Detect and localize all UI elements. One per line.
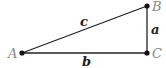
vertex-a-label: A	[7, 46, 17, 61]
vertex-b-label: B	[151, 0, 162, 14]
vertex-c-point	[144, 50, 149, 55]
vertex-a-point	[19, 50, 24, 55]
side-b-label: b	[82, 54, 91, 68]
vertex-b-point	[144, 3, 149, 8]
side-a-label: a	[151, 22, 159, 37]
triangle-diagram: A B C a b c	[0, 0, 166, 68]
vertex-c-label: C	[152, 46, 162, 61]
side-c-label: c	[80, 14, 88, 29]
